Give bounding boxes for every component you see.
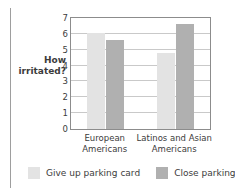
legend-label-dark: Close parking lot	[174, 168, 235, 179]
legend-swatch-dark	[156, 167, 168, 179]
x-category-label-2-line-2: Americans	[130, 144, 220, 155]
left-margin-rule	[10, 8, 11, 188]
legend-swatch-light	[28, 167, 40, 179]
y-tick-label-1: 1	[56, 109, 68, 118]
y-tick-label-4: 4	[56, 61, 68, 70]
y-tick-label-6: 6	[56, 30, 68, 39]
y-axis-tick-labels: 01234567	[56, 17, 68, 130]
y-tick-label-0: 0	[56, 125, 68, 134]
y-tick-label-2: 2	[56, 93, 68, 102]
y-tick-label-5: 5	[56, 45, 68, 54]
x-category-label-2-line-1: Latinos and Asian	[130, 133, 220, 144]
legend-item-give-up-parking-card[interactable]: Give up parking card	[28, 167, 140, 179]
legend: Give up parking card Close parking lot	[28, 167, 235, 179]
x-axis-category-labels: EuropeanAmericansLatinos and AsianAmeric…	[70, 133, 211, 157]
legend-label-light: Give up parking card	[46, 168, 140, 179]
x-category-label-2: Latinos and AsianAmericans	[130, 133, 220, 154]
legend-item-close-parking-lot[interactable]: Close parking lot	[156, 167, 235, 179]
bar-1-1	[87, 33, 105, 129]
y-tick-label-7: 7	[56, 14, 68, 23]
bars-layer	[71, 18, 210, 129]
bar-2-1	[157, 53, 175, 129]
bar-2-2	[176, 24, 194, 129]
bar-1-2	[106, 40, 124, 129]
y-tick-label-3: 3	[56, 77, 68, 86]
